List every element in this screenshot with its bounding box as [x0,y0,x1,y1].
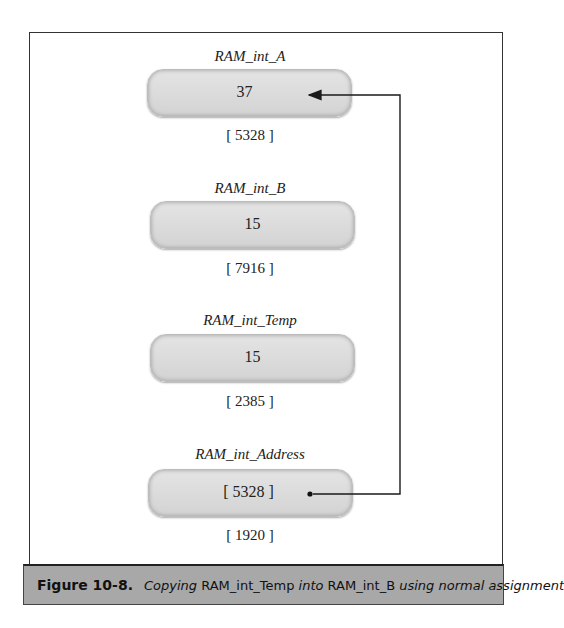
caption-part: RAM_int_B [328,578,395,593]
caption-part: Copying [144,578,201,593]
caption-part: RAM_int_Temp [201,578,294,593]
figure-caption: Figure 10-8. Copying RAM_int_Temp into R… [23,564,504,605]
caption-text: Copying RAM_int_Temp into RAM_int_B usin… [144,578,564,593]
caption-label: Figure 10-8. [37,577,133,593]
caption-part: using normal assignment [395,578,564,593]
caption-part: into [294,578,327,593]
